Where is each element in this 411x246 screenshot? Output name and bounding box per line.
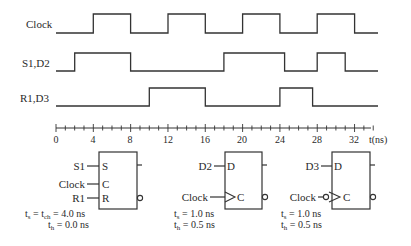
wire-label: R1 [72, 192, 85, 204]
tick-label: 12 [163, 134, 173, 145]
tick-label: 20 [237, 134, 247, 145]
wire-label: Clock [59, 178, 86, 190]
pin-label: S [102, 160, 108, 172]
pin-label: D [334, 160, 342, 172]
pin-label: C [102, 178, 109, 190]
tick-label: 0 [54, 134, 59, 145]
signal-label-clock: Clock [26, 18, 53, 30]
wire-label: Clock [290, 191, 317, 203]
clock-inversion-bubble [323, 194, 328, 199]
output-qbar-bubble [370, 194, 375, 199]
pin-label: R [102, 192, 110, 204]
waveform-clock [56, 14, 378, 33]
tick-label: 16 [200, 134, 210, 145]
timing-spec-hold: th = 0.5 ns [174, 219, 215, 232]
clock-edge-triangle-icon [225, 192, 235, 202]
wire-label: D2 [199, 160, 212, 172]
d-flipflop-falling: D3 Clock D C ts = 1.0 ns th = 0.5 ns [281, 152, 376, 232]
d-flipflop-rising: D2 Clock D C ts = 1.0 ns th = 0.5 ns [174, 152, 268, 232]
time-axis [56, 124, 373, 132]
tick-label: 8 [128, 134, 133, 145]
signal-label-r1-d3: R1,D3 [20, 92, 50, 104]
pin-label: D [227, 160, 235, 172]
axis-unit-label: t(ns) [369, 134, 387, 146]
waveform-s1-d2 [56, 53, 378, 71]
waveform-r1-d3 [56, 88, 378, 106]
wire-label: S1 [73, 160, 85, 172]
waveforms [56, 14, 378, 106]
tick-label: 32 [349, 134, 359, 145]
output-qbar-bubble [137, 195, 142, 200]
wire-label: Clock [182, 191, 209, 203]
axis-tick-labels: 0 4 8 12 16 20 24 28 32 t(ns) [54, 134, 388, 146]
tick-label: 24 [275, 134, 285, 145]
signal-label-s1-d2: S1,D2 [22, 57, 50, 69]
tick-label: 28 [312, 134, 322, 145]
output-qbar-bubble [262, 194, 267, 199]
timing-spec-hold: th = 0.0 ns [48, 219, 89, 232]
sr-flipflop: S1 Clock R1 S C R ts = tch = 4.0 ns th =… [25, 152, 143, 232]
timing-diagram: Clock S1,D2 R1,D3 0 4 8 12 16 20 24 28 3… [0, 0, 411, 246]
wire-label: D3 [306, 160, 320, 172]
timing-spec-hold: th = 0.5 ns [281, 219, 322, 232]
pin-label: C [343, 191, 350, 203]
tick-label: 4 [91, 134, 96, 145]
clock-edge-triangle-icon [329, 192, 340, 202]
pin-label: C [237, 191, 244, 203]
